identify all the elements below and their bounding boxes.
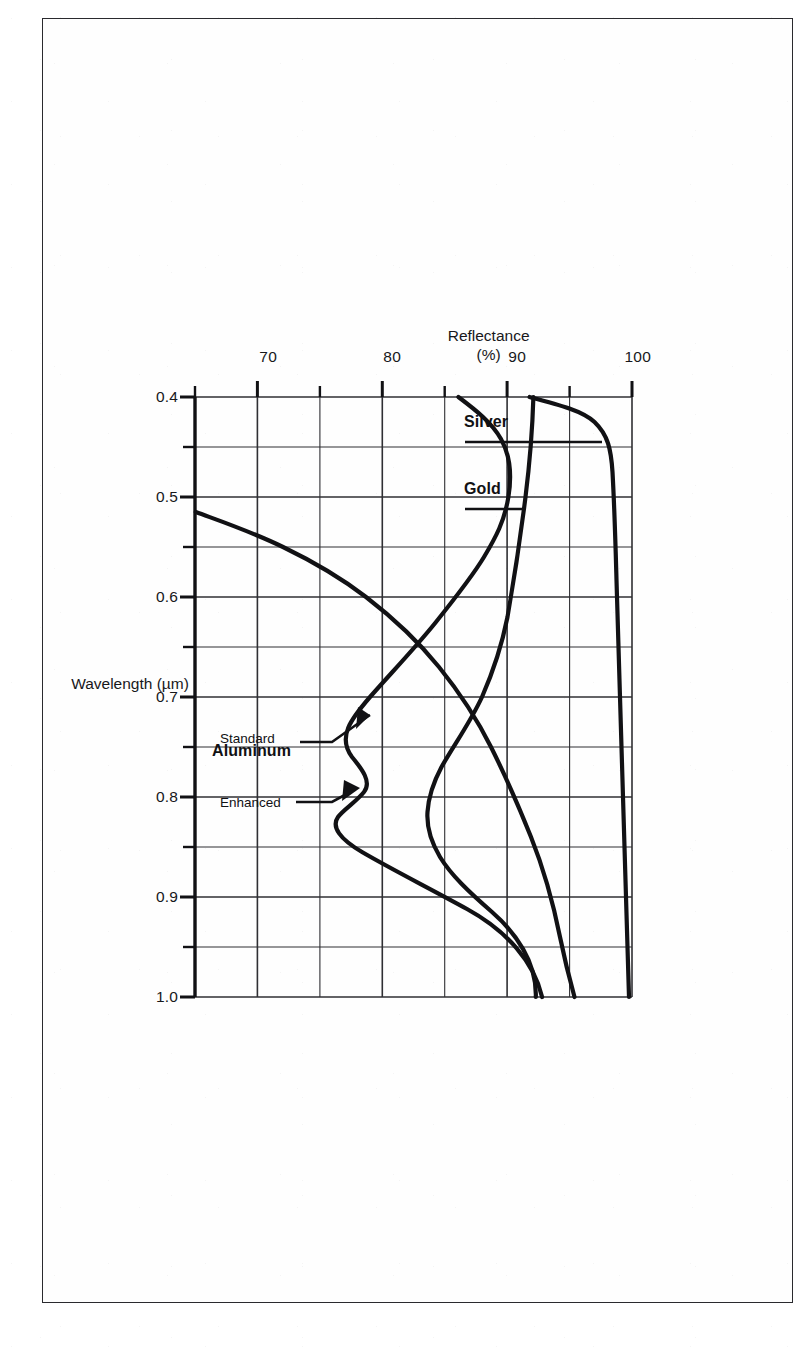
enhanced-arrow: [296, 780, 360, 802]
ytick-label-100: 100: [611, 348, 651, 366]
series-label-silver: Silver: [464, 413, 508, 431]
xtick-label-10: 0.9: [147, 888, 187, 906]
ytick-label-80: 80: [361, 348, 401, 366]
series-label-enhanced: Enhanced: [220, 795, 281, 810]
plot-svg: [195, 397, 632, 997]
rotated-chart-container: Silver Gold Aluminum Standard Enhanced 0…: [124, 285, 684, 1075]
ytick-label-70: 70: [237, 348, 277, 366]
series-label-gold: Gold: [464, 480, 501, 498]
plot-area: Silver Gold Aluminum Standard Enhanced: [195, 397, 632, 997]
grid-lines: [195, 397, 632, 997]
standard-arrow: [300, 707, 370, 742]
xtick-label-2: 0.5: [147, 488, 187, 506]
y-axis-ticks: [195, 381, 632, 397]
y-axis-title-line2: (%): [409, 345, 569, 364]
chart: Silver Gold Aluminum Standard Enhanced 0…: [124, 285, 684, 1075]
series-label-standard: Standard: [220, 731, 275, 746]
xtick-label-8: 0.8: [147, 788, 187, 806]
x-axis-title: Wavelength (µm): [71, 675, 189, 693]
y-axis-title-line1: Reflectance: [409, 326, 569, 345]
scanned-page: Silver Gold Aluminum Standard Enhanced 0…: [0, 0, 808, 1356]
xtick-label-4: 0.6: [147, 588, 187, 606]
xtick-label-12: 1.0: [147, 988, 187, 1006]
y-axis-title: Reflectance (%): [409, 326, 569, 365]
xtick-label-0: 0.4: [147, 388, 187, 406]
